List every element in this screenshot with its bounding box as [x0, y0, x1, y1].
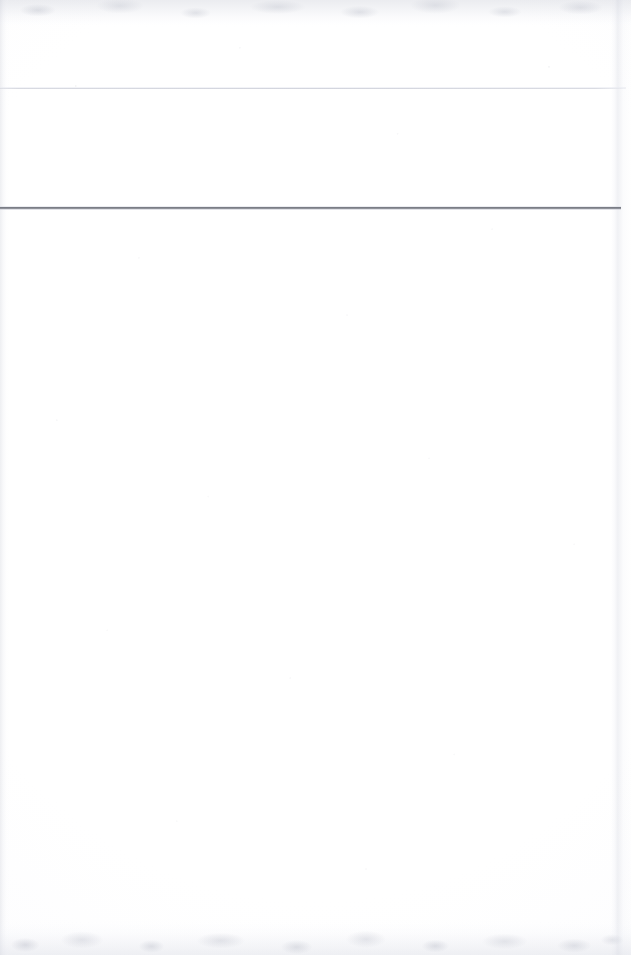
bottom-scan-noise-band: [0, 919, 631, 955]
scanned-page: [0, 0, 631, 955]
header-region: [0, 0, 631, 88]
subheader-region: [0, 89, 631, 207]
body-region: [0, 210, 631, 955]
lower-horizontal-rule: [0, 207, 621, 209]
